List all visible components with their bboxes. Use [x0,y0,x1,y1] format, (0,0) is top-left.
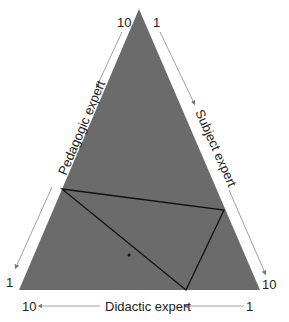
bottom-axis-start: 1 [246,299,253,314]
bottom-axis-label: Didactic expert [105,299,191,314]
ternary-diagram: 10 1 Pedagogic expert 1 10 Subject exper… [0,0,289,322]
left-axis-end: 1 [6,275,13,290]
data-point [128,254,131,257]
left-axis-start: 10 [117,15,131,30]
right-axis-start: 1 [153,15,160,30]
right-axis-end: 10 [262,277,276,292]
bottom-axis-end: 10 [22,299,36,314]
